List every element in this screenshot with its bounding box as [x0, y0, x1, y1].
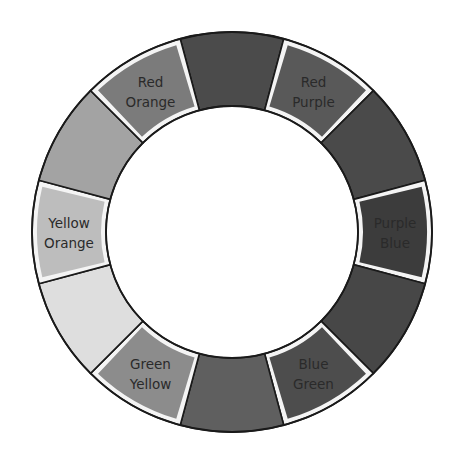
- wheel-segments: [32, 32, 432, 432]
- segment-purple-blue-swatch: [359, 187, 427, 277]
- color-wheel: RedPurplePurpleBlueBlueGreenGreenYellowY…: [0, 0, 460, 465]
- inner-ring-outline: [106, 106, 358, 358]
- segment-yellow-orange-swatch: [37, 187, 105, 277]
